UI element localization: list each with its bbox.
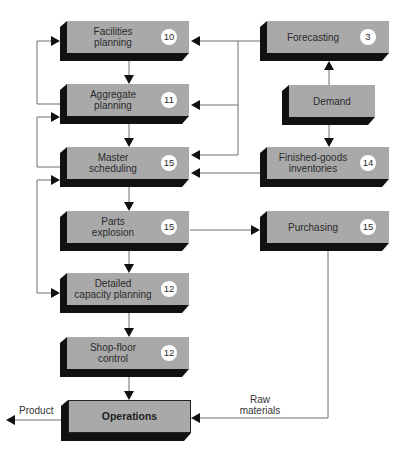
node-label: Facilities planning (67, 21, 159, 53)
node-purchasing: Purchasing 15 (260, 211, 389, 251)
box-face: Operations (68, 400, 191, 433)
node-label-line: capacity planning (74, 289, 151, 300)
chapter-badge: 12 (161, 281, 177, 297)
box-face: Demand (289, 85, 375, 117)
raw-materials-label: Raw materials (230, 394, 290, 416)
node-label: Operations (69, 401, 190, 432)
node-label-line: explosion (92, 227, 134, 238)
node-label-line: scheduling (89, 163, 137, 174)
node-label: Finished-goods inventories (267, 147, 359, 179)
node-label-line: Facilities (94, 26, 133, 37)
box-face: Purchasing 15 (267, 211, 389, 243)
loop-master-to-aggregate (37, 117, 60, 167)
box-face: Master scheduling 15 (67, 147, 189, 179)
chapter-badge: 3 (360, 29, 376, 45)
node-label-line: inventories (289, 163, 337, 174)
loop-aggregate-to-facilities (37, 41, 60, 104)
node-label-line: planning (94, 100, 132, 111)
chapter-badge: 11 (161, 92, 177, 108)
node-demand: Demand (282, 85, 375, 125)
box-face: Shop-floor control 12 (67, 337, 189, 369)
node-forecasting: Forecasting 3 (260, 21, 389, 61)
chapter-badge: 12 (161, 345, 177, 361)
chapter-badge: 15 (161, 155, 177, 171)
node-label: Demand (289, 85, 375, 117)
node-facilities-planning: Facilities planning 10 (60, 21, 189, 61)
chapter-badge: 10 (161, 29, 177, 45)
raw-materials-line: materials (230, 405, 290, 416)
node-label-line: control (98, 353, 128, 364)
node-label: Master scheduling (67, 147, 159, 179)
node-label-line: Shop-floor (90, 342, 136, 353)
node-label-line: Master (98, 152, 129, 163)
node-label: Detailed capacity planning (67, 273, 159, 305)
chapter-badge: 14 (360, 155, 376, 171)
chapter-badge: 15 (360, 219, 376, 235)
node-aggregate-planning: Aggregate planning 11 (60, 84, 189, 124)
node-label-line: Detailed (95, 278, 132, 289)
node-label-line: Demand (313, 96, 351, 107)
box-face: Facilities planning 10 (67, 21, 189, 53)
box-face: Detailed capacity planning 12 (67, 273, 189, 305)
box-face: Parts explosion 15 (67, 211, 189, 243)
node-label-line: Parts (101, 216, 124, 227)
node-parts-explosion: Parts explosion 15 (60, 211, 189, 251)
product-label: Product (19, 405, 53, 416)
node-label: Forecasting (267, 21, 359, 53)
box-face: Finished-goods inventories 14 (267, 147, 389, 179)
node-label-line: planning (94, 37, 132, 48)
chapter-badge: 15 (161, 219, 177, 235)
production-planning-diagram: Facilities planning 10 Aggregate plannin… (0, 0, 409, 467)
node-shop-floor-control: Shop-floor control 12 (60, 337, 189, 377)
arrow-purchasing-to-operations (200, 251, 328, 418)
node-label-line: Forecasting (287, 32, 339, 43)
node-master-scheduling: Master scheduling 15 (60, 147, 189, 187)
node-finished-goods-inventories: Finished-goods inventories 14 (260, 147, 389, 187)
node-label: Shop-floor control (67, 337, 159, 369)
node-operations: Operations (61, 400, 191, 441)
node-label: Aggregate planning (67, 84, 159, 116)
node-label-line: Operations (102, 411, 157, 422)
node-label: Parts explosion (67, 211, 159, 243)
node-detailed-capacity-planning: Detailed capacity planning 12 (60, 273, 189, 313)
node-label-line: Aggregate (90, 89, 136, 100)
raw-materials-line: Raw (230, 394, 290, 405)
node-label: Purchasing (267, 211, 359, 243)
loop-master-detailed (37, 180, 51, 293)
node-label-line: Purchasing (288, 222, 338, 233)
box-face: Forecasting 3 (267, 21, 389, 53)
node-label-line: Finished-goods (279, 152, 347, 163)
box-face: Aggregate planning 11 (67, 84, 189, 116)
